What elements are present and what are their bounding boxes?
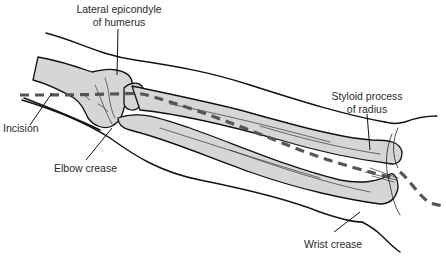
label-wrist-crease: Wrist crease — [304, 238, 362, 251]
hand-outline-bottom — [362, 222, 400, 252]
label-incision: Incision — [3, 122, 39, 135]
diagram-canvas — [0, 0, 446, 260]
incision-line-hand — [400, 172, 446, 206]
label-wrist-crease-text: Wrist crease — [304, 238, 362, 251]
forearm-diagram: Lateral epicondyle of humerus Incision E… — [0, 0, 446, 260]
label-incision-text: Incision — [3, 122, 39, 135]
label-elbow-crease: Elbow crease — [54, 162, 117, 175]
label-lateral-epicondyle-line2: of humerus — [76, 16, 162, 29]
label-lateral-epicondyle-line1: Lateral epicondyle — [76, 3, 162, 16]
label-lateral-epicondyle: Lateral epicondyle of humerus — [76, 3, 162, 28]
leader-lateral-epicondyle — [117, 29, 118, 75]
label-styloid-line1: Styloid process — [320, 90, 414, 103]
label-styloid-line2: of radius — [320, 103, 414, 116]
leader-elbow-crease — [86, 128, 112, 160]
hand-outline-top — [385, 116, 437, 124]
label-styloid-process: Styloid process of radius — [320, 90, 414, 115]
label-elbow-crease-text: Elbow crease — [54, 162, 117, 175]
